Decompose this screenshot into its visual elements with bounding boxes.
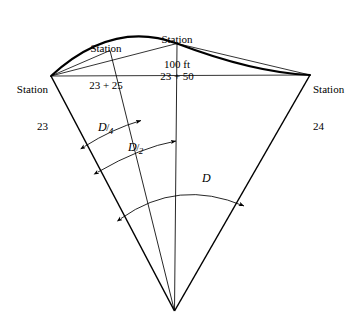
station-23-plus-50-label-line1: Station — [137, 33, 217, 45]
station-23-plus-25-label: Station 23 + 25 — [66, 17, 146, 116]
station-24-label-line2: 24 — [313, 120, 356, 132]
angle-d-over-2-denominator: 2 — [139, 146, 144, 156]
angle-d-over-4-denominator: 4 — [109, 126, 114, 136]
station-23-plus-50-label-line2: 23 + 50 — [137, 70, 217, 82]
angle-d-symbol: D — [202, 171, 211, 185]
station-24-label-line1: Station — [313, 83, 356, 95]
station-24-label: Station 24 — [313, 58, 356, 157]
long-chord-label: 100 ft — [138, 58, 216, 70]
angle-label-d: D — [202, 171, 211, 186]
station-23-plus-25-label-line2: 23 + 25 — [66, 79, 146, 91]
station-23-plus-25-label-line1: Station — [66, 42, 146, 54]
circular-curve-diagram: Station 23 Station 23 + 25 Station 23 + … — [0, 0, 356, 324]
station-23-label-line2: 23 — [0, 120, 48, 132]
angle-label-d-over-2: D/2 — [128, 140, 143, 156]
angle-label-d-over-4: D/4 — [98, 120, 113, 136]
station-23-label-line1: Station — [0, 83, 48, 95]
radial-to-station-24 — [175, 75, 311, 311]
angle-arc-d — [121, 195, 244, 219]
station-23-label: Station 23 — [0, 58, 48, 157]
